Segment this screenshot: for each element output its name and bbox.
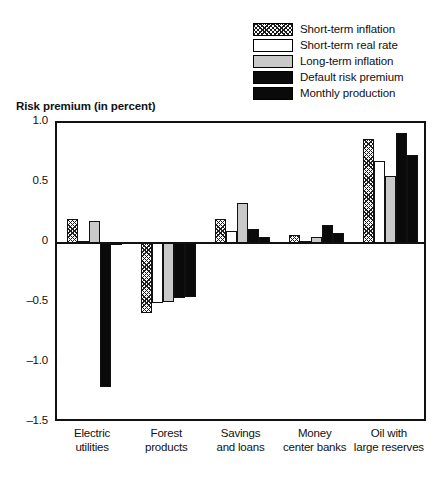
bar bbox=[333, 233, 344, 243]
bar bbox=[111, 243, 122, 245]
y-axis-tick-label: –0.5 bbox=[2, 295, 48, 307]
bar bbox=[289, 235, 300, 243]
x-axis-label-line: large reserves bbox=[340, 441, 438, 455]
bar bbox=[100, 243, 111, 387]
x-axis-labels: ElectricutilitiesForestproductsSavingsan… bbox=[55, 427, 426, 467]
bar bbox=[78, 241, 89, 243]
bar bbox=[259, 237, 270, 243]
bar bbox=[385, 176, 396, 243]
chart-figure: Short-term inflation Short-term real rat… bbox=[0, 0, 441, 491]
y-axis-tick-label: 1.0 bbox=[2, 115, 48, 127]
bar-group bbox=[354, 123, 428, 419]
y-axis-tick-label: –1.5 bbox=[2, 415, 48, 427]
x-axis-category-label: Oil withlarge reserves bbox=[340, 427, 438, 454]
bar bbox=[248, 229, 259, 243]
bar bbox=[407, 155, 418, 243]
bar-group bbox=[205, 123, 279, 419]
bar bbox=[300, 241, 311, 243]
bar bbox=[141, 243, 152, 313]
y-axis-tick-label: 0.5 bbox=[2, 175, 48, 187]
bar bbox=[396, 133, 407, 243]
bars-container bbox=[57, 123, 424, 419]
bar bbox=[174, 243, 185, 298]
bar-group bbox=[131, 123, 205, 419]
bar bbox=[311, 237, 322, 243]
bar bbox=[185, 243, 196, 297]
bar bbox=[374, 161, 385, 243]
bar bbox=[226, 231, 237, 243]
bar-group bbox=[280, 123, 354, 419]
bar bbox=[363, 139, 374, 243]
bar bbox=[237, 203, 248, 243]
bar bbox=[163, 243, 174, 302]
bar bbox=[322, 225, 333, 243]
y-axis-tick-label: –1.0 bbox=[2, 355, 48, 367]
y-axis-tick-label: 0 bbox=[2, 235, 48, 247]
bar bbox=[67, 219, 78, 243]
bar-group bbox=[57, 123, 131, 419]
bar bbox=[152, 243, 163, 303]
bar bbox=[89, 221, 100, 243]
bar bbox=[215, 219, 226, 243]
plot-area bbox=[55, 121, 426, 421]
x-axis-label-line: Oil with bbox=[340, 427, 438, 441]
